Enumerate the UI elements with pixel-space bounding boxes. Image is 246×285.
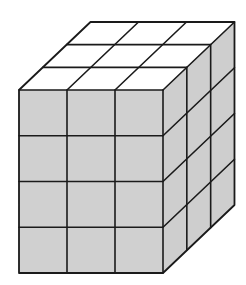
cube-stack-diagram	[0, 0, 246, 285]
cube-prism-figure	[0, 0, 246, 285]
front-face	[19, 90, 163, 273]
